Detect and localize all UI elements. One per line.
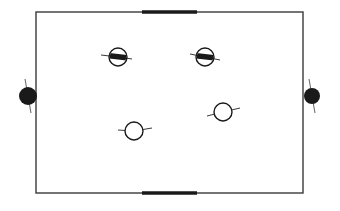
court-canvas bbox=[0, 0, 340, 211]
player-head-icon bbox=[125, 122, 143, 140]
right-marker bbox=[304, 79, 320, 113]
court-diagram bbox=[0, 0, 340, 211]
player-3 bbox=[118, 122, 152, 140]
marker-disc-icon bbox=[304, 88, 320, 104]
court-boundary bbox=[36, 12, 303, 193]
players bbox=[101, 48, 240, 140]
side-markers bbox=[19, 79, 320, 113]
player-2 bbox=[190, 48, 220, 66]
marker-disc-icon bbox=[19, 87, 37, 105]
player-1 bbox=[101, 48, 132, 66]
goals bbox=[142, 12, 197, 193]
player-4 bbox=[207, 103, 240, 121]
player-head-icon bbox=[214, 103, 232, 121]
left-marker bbox=[19, 79, 37, 113]
